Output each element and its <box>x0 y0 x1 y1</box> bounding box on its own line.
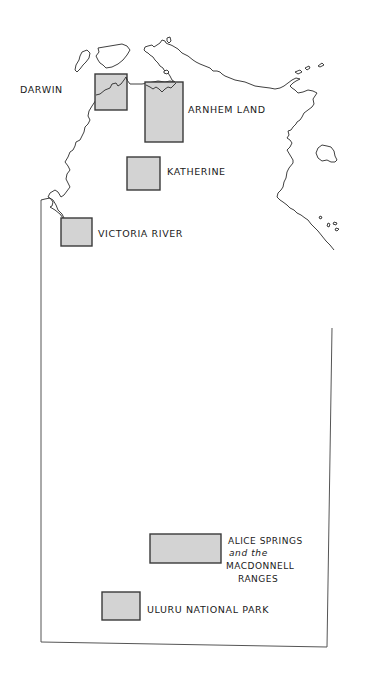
label-victoria-river[interactable]: VICTORIA RIVER <box>98 228 183 239</box>
region-box-darwin[interactable] <box>95 74 127 110</box>
island-small-6 <box>319 216 322 219</box>
label-alice-springs-line4[interactable]: RANGES <box>238 574 278 584</box>
island-groote <box>316 145 337 162</box>
region-box-arnhem-land[interactable] <box>145 82 183 142</box>
region-box-alice-springs[interactable] <box>150 534 221 563</box>
region-box-katherine[interactable] <box>127 157 160 190</box>
island-small-2 <box>167 37 171 43</box>
territory-border <box>41 200 332 647</box>
island-small-3 <box>295 70 302 74</box>
region-box-victoria-river[interactable] <box>61 218 92 246</box>
island-melville <box>96 44 130 68</box>
island-bathurst <box>75 50 90 72</box>
label-darwin[interactable]: DARWIN <box>20 84 63 95</box>
island-small-8 <box>333 222 337 225</box>
island-small-7 <box>327 223 330 227</box>
label-alice-springs-line2[interactable]: and the <box>229 548 268 558</box>
label-arnhem-land[interactable]: ARNHEM LAND <box>188 104 266 115</box>
region-box-uluru[interactable] <box>102 592 140 620</box>
island-small-5 <box>318 63 324 67</box>
label-katherine[interactable]: KATHERINE <box>167 166 226 177</box>
island-small-9 <box>335 228 339 231</box>
label-alice-springs-line3[interactable]: MACDONNELL <box>226 561 294 571</box>
northern-territory-map: DARWIN ARNHEM LAND KATHERINE VICTORIA RI… <box>0 0 383 683</box>
label-alice-springs-line1[interactable]: ALICE SPRINGS <box>228 536 303 546</box>
label-uluru[interactable]: ULURU NATIONAL PARK <box>147 604 269 615</box>
island-small-4 <box>305 66 310 70</box>
